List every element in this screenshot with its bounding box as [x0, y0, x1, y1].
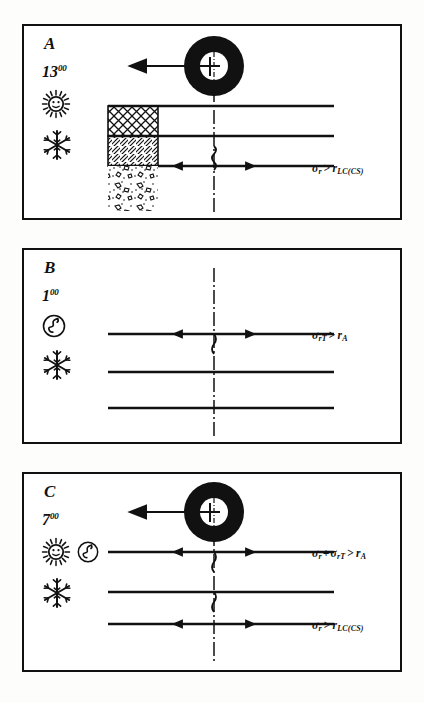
figure-root: A 1300	[0, 0, 424, 703]
panel-b-formula-1: σrT>rA	[312, 329, 348, 343]
panel-c: C 700	[22, 472, 402, 672]
panel-c-formula-1: σr+σrT>rA	[312, 547, 366, 561]
panel-b: B 100	[22, 248, 402, 444]
diagonal-hatch-layer	[108, 136, 158, 166]
panel-a-drawing	[24, 26, 400, 218]
panel-a: A 1300	[22, 24, 402, 220]
cross-hatch-layer	[108, 106, 158, 136]
panel-b-drawing	[24, 250, 400, 442]
strata-lines	[108, 552, 334, 624]
strata-lines	[108, 334, 334, 408]
panel-a-formula-1: σr>rLC(CS)	[312, 162, 364, 176]
panel-c-formula-2: σr>rLC(CS)	[312, 619, 364, 633]
panel-c-drawing	[24, 474, 400, 670]
gravel-layer	[108, 166, 158, 211]
